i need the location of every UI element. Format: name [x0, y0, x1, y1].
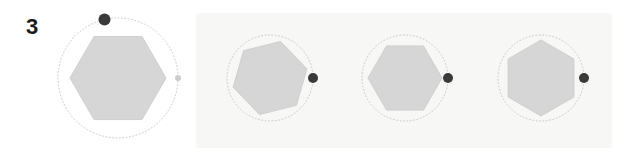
rotation-handle-dot[interactable]	[99, 14, 111, 26]
ghost-handle-dot[interactable]	[175, 75, 181, 81]
hexagon-shape[interactable]	[508, 40, 574, 116]
hexagon-shape[interactable]	[70, 36, 166, 119]
rotation-frame-1[interactable]	[44, 4, 192, 152]
rotation-frame-2[interactable]	[213, 21, 327, 135]
rotation-frame-4[interactable]	[484, 21, 598, 135]
rotation-handle-dot[interactable]	[579, 73, 589, 83]
step-number-label: 3	[26, 16, 38, 38]
hexagon-shape[interactable]	[233, 41, 307, 114]
rotation-frame-3[interactable]	[348, 21, 462, 135]
rotation-handle-dot[interactable]	[443, 73, 453, 83]
hexagon-shape[interactable]	[368, 46, 442, 110]
rotation-handle-dot[interactable]	[308, 73, 318, 83]
rotation-sequence-illustration: 3	[0, 0, 626, 160]
